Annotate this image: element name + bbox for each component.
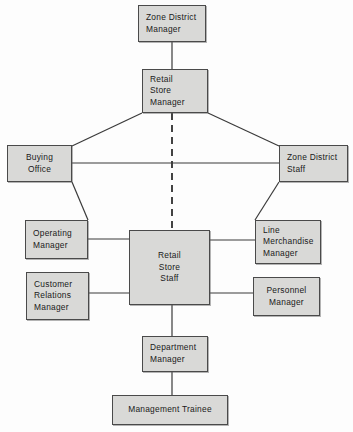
node-retail-store-manager[interactable]: RetailStoreManager	[142, 69, 208, 113]
node-management-trainee[interactable]: Management Trainee	[112, 395, 228, 425]
node-label-line: Manager	[146, 24, 181, 36]
node-label-line: Relations	[34, 290, 71, 302]
connector-rsm-to-zone-district-staff	[208, 113, 279, 146]
node-operating-manager[interactable]: OperatingManager	[25, 220, 88, 259]
node-label-line: Personnel	[267, 285, 307, 297]
node-label-line: Manager	[150, 97, 185, 109]
node-zone-district-staff[interactable]: Zone DistrictStaff	[279, 145, 348, 182]
node-label-line: Zone District	[146, 12, 196, 24]
node-label-line: Staff	[160, 273, 178, 285]
node-buying-office[interactable]: BuyingOffice	[7, 145, 72, 182]
node-label-line: Line	[263, 225, 280, 237]
node-customer-relations-manager[interactable]: CustomerRelationsManager	[26, 272, 89, 320]
node-label-line: Manager	[150, 354, 185, 366]
node-label-line: Manager	[34, 302, 69, 314]
node-label-line: Manager	[263, 248, 298, 260]
node-label-line: Retail	[158, 250, 181, 262]
node-personnel-manager[interactable]: PersonnelManager	[253, 277, 320, 316]
node-retail-store-staff[interactable]: RetailStoreStaff	[129, 230, 210, 305]
connector-zone-district-staff-to-line-merchandise	[255, 182, 279, 220]
node-label-line: Store	[159, 262, 180, 274]
node-zone-district-manager[interactable]: Zone DistrictManager	[138, 5, 206, 42]
org-chart-diagram: Zone DistrictManagerRetailStoreManagerBu…	[0, 0, 353, 432]
node-label-line: Manager	[269, 297, 304, 309]
node-label-line: Customer	[34, 279, 72, 291]
node-label-line: Management Trainee	[128, 404, 212, 416]
node-line-merchandise-manager[interactable]: LineMerchandiseManager	[255, 220, 321, 264]
node-label-line: Manager	[33, 240, 68, 252]
connector-buying-office-to-operating-manager	[72, 182, 88, 220]
node-label-line: Merchandise	[263, 236, 314, 248]
node-label-line: Store	[150, 85, 171, 97]
connector-rsm-to-buying-office	[72, 113, 142, 146]
node-department-manager[interactable]: DepartmentManager	[142, 336, 208, 372]
node-label-line: Operating	[33, 228, 72, 240]
node-label-line: Department	[150, 342, 196, 354]
node-label-line: Staff	[287, 164, 305, 176]
node-label-line: Zone District	[287, 152, 337, 164]
node-label-line: Buying	[26, 152, 53, 164]
node-label-line: Retail	[150, 74, 173, 86]
node-label-line: Office	[28, 164, 51, 176]
